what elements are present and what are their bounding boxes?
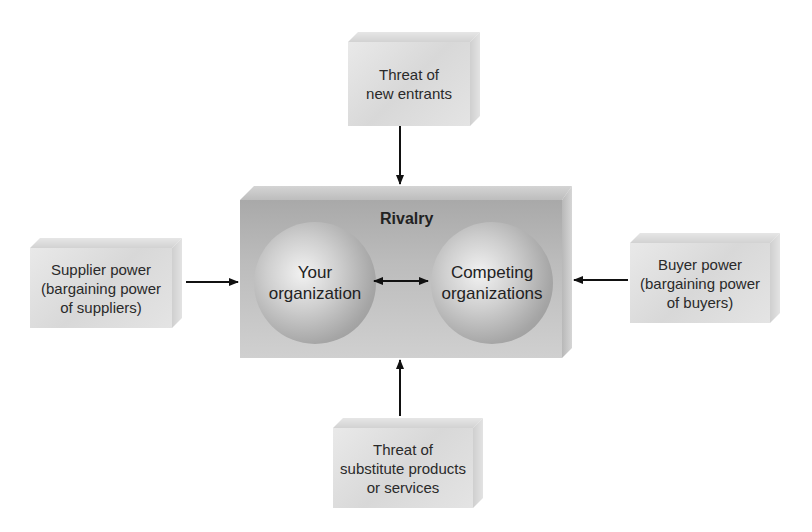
arrows-layer (0, 0, 812, 532)
